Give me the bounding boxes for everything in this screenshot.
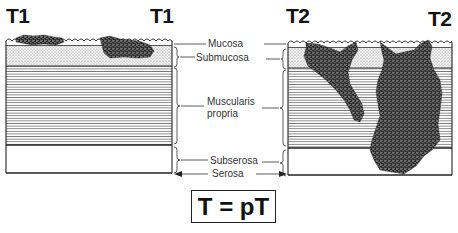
serosa-arrow-left-icon (174, 171, 182, 177)
left-subserosa-layer (6, 145, 172, 173)
layer-label-submucosa: Submucosa (196, 52, 249, 63)
layer-label-propria: propria (207, 108, 238, 119)
left-muscularis-layer (6, 66, 172, 145)
layer-label-muscularis: Muscularis (207, 96, 255, 107)
left-tumor-mucosa (16, 35, 64, 45)
layer-label-mucosa: Mucosa (208, 38, 243, 49)
left-panel-t1 (6, 35, 172, 173)
layer-label-serosa: Serosa (212, 168, 244, 179)
right-panel-t2 (288, 40, 452, 175)
formula-box: T = pT (191, 190, 276, 223)
layer-label-subserosa: Subserosa (210, 155, 258, 166)
formula-text: T = pT (198, 193, 269, 221)
